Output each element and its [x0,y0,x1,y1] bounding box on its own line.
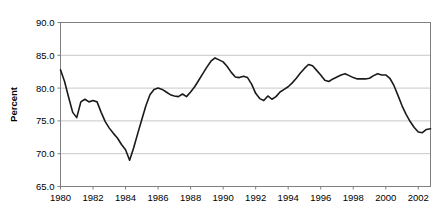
y-tick-label-80.0: 80.0 [36,83,55,94]
y-tick-label-90.0: 90.0 [36,17,55,28]
x-tick-label-1992: 1992 [245,192,266,203]
y-axis-title: Percent [8,86,19,122]
y-axis-title-label: Percent [8,86,19,122]
x-tick-label-1982: 1982 [82,192,103,203]
x-tick-label-1994: 1994 [278,192,299,203]
x-tick-label-1998: 1998 [343,192,364,203]
y-tick-label-75.0: 75.0 [36,115,55,126]
x-tick-label-1990: 1990 [213,192,234,203]
chart-container: 65.070.075.080.085.090.0 198019821984198… [0,0,448,224]
x-tick-label-2002: 2002 [408,192,429,203]
chart-background [0,0,448,224]
y-tick-label-65.0: 65.0 [36,181,55,192]
y-tick-label-70.0: 70.0 [36,148,55,159]
line-chart: 65.070.075.080.085.090.0 198019821984198… [0,0,448,224]
x-tick-label-1986: 1986 [148,192,169,203]
x-tick-label-1988: 1988 [180,192,201,203]
x-tick-label-1996: 1996 [310,192,331,203]
x-tick-label-2000: 2000 [375,192,396,203]
x-tick-label-1980: 1980 [50,192,71,203]
y-tick-label-85.0: 85.0 [36,50,55,61]
x-tick-label-1984: 1984 [115,192,136,203]
